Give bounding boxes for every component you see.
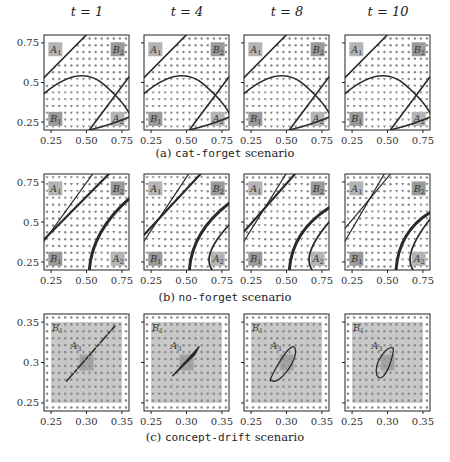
x-tick-label: 0.50 [275, 135, 297, 146]
x-tick-label: 0.25 [341, 135, 363, 146]
y-tick-label: 0.25 [17, 257, 39, 268]
caption-c-suffix: scenario [251, 430, 304, 444]
y-tick-label: 0.5 [23, 217, 39, 228]
x-tick-label: 0.75 [412, 135, 434, 146]
panel-a-1: A1B2B1A20.250.500.750.250.50.75 [17, 30, 134, 146]
x-tick-label: 0.50 [275, 275, 297, 286]
x-tick-label: 0.25 [240, 275, 262, 286]
y-tick-label: 0.35 [17, 317, 39, 328]
panel-a-4: A1B2B1A20.250.500.75 [341, 30, 435, 146]
caption-a-prefix: (a) [156, 146, 176, 160]
x-tick-label: 0.75 [311, 275, 333, 286]
caption-a: (a) cat-forget scenario [0, 146, 450, 160]
x-tick-label: 0.25 [240, 135, 262, 146]
x-tick-label: 0.30 [175, 416, 197, 427]
x-tick-label: 0.30 [275, 416, 297, 427]
x-tick-label: 0.50 [376, 135, 398, 146]
panel-b-3: A1B2B1A20.250.500.75 [240, 169, 334, 286]
caption-c: (c) concept-drift scenario [0, 430, 450, 444]
caption-b-scenario: no-forget [179, 291, 239, 304]
caption-a-scenario: cat-forget [175, 147, 241, 160]
y-tick-label: 0.5 [23, 77, 39, 88]
x-tick-label: 0.25 [341, 416, 363, 427]
panel-c-2: B1A30.250.300.35 [140, 309, 233, 427]
caption-b: (b) no-forget scenario [0, 290, 450, 304]
y-tick-label: 0.25 [17, 397, 39, 408]
x-tick-label: 0.50 [376, 275, 398, 286]
x-tick-label: 0.25 [40, 275, 62, 286]
x-tick-label: 0.75 [111, 275, 133, 286]
x-tick-label: 0.25 [40, 135, 62, 146]
caption-a-suffix: scenario [241, 146, 294, 160]
x-tick-label: 0.30 [75, 416, 97, 427]
y-tick-label: 0.75 [17, 37, 39, 48]
panel-b-4: A1B2B1A20.250.500.75 [341, 169, 435, 286]
panel-b-1: A1B2B1A20.250.500.750.250.50.75 [17, 169, 134, 286]
panel-a-3: A1B2B1A20.250.500.75 [240, 30, 334, 146]
x-tick-label: 0.25 [40, 416, 62, 427]
y-tick-label: 0.3 [23, 357, 39, 368]
x-tick-label: 0.25 [140, 135, 162, 146]
x-tick-label: 0.50 [175, 135, 197, 146]
x-tick-label: 0.25 [341, 275, 363, 286]
y-tick-label: 0.25 [17, 117, 39, 128]
x-tick-label: 0.50 [75, 135, 97, 146]
panel-b-2: A1B2B1A20.250.500.75 [140, 169, 234, 286]
caption-b-suffix: scenario [238, 290, 291, 304]
x-tick-label: 0.75 [111, 135, 133, 146]
x-tick-label: 0.25 [240, 416, 262, 427]
panel-c-4: B1A30.250.300.35 [341, 309, 434, 427]
x-tick-label: 0.25 [140, 275, 162, 286]
panel-a-2: A1B2B1A20.250.500.75 [140, 30, 234, 146]
x-tick-label: 0.30 [376, 416, 398, 427]
x-tick-label: 0.75 [412, 275, 434, 286]
x-tick-label: 0.50 [75, 275, 97, 286]
x-tick-label: 0.35 [211, 416, 233, 427]
caption-c-scenario: concept-drift [165, 431, 251, 444]
x-tick-label: 0.75 [211, 135, 233, 146]
plot-grid: A1B2B1A20.250.500.750.250.50.75A1B2B1A20… [0, 0, 450, 462]
x-tick-label: 0.75 [311, 135, 333, 146]
figure: t = 1 t = 4 t = 8 t = 10 A1B2B1A20.250.5… [0, 0, 450, 462]
caption-b-prefix: (b) [159, 290, 179, 304]
x-tick-label: 0.35 [412, 416, 434, 427]
caption-c-prefix: (c) [146, 430, 165, 444]
x-tick-label: 0.50 [175, 275, 197, 286]
x-tick-label: 0.35 [111, 416, 133, 427]
x-tick-label: 0.25 [140, 416, 162, 427]
x-tick-label: 0.75 [211, 275, 233, 286]
x-tick-label: 0.35 [311, 416, 333, 427]
panel-c-3: B1A30.250.300.35 [240, 309, 333, 427]
y-tick-label: 0.75 [17, 177, 39, 188]
panel-c-1: B1A30.250.300.350.250.30.35 [17, 309, 134, 427]
